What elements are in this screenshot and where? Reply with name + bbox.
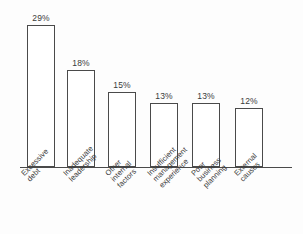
bar-chart: 29% 18% 15% 13% 13% 12% Excessive debt I…: [0, 0, 303, 234]
bar-value-excessive-debt: 29%: [27, 13, 55, 23]
bar-value-other-internal-factors: 15%: [108, 80, 136, 90]
plot-area: 29% 18% 15% 13% 13% 12% Excessive debt I…: [0, 0, 303, 234]
bar-value-poor-business-planning: 13%: [192, 91, 220, 101]
bar-excessive-debt: [27, 25, 55, 167]
bar-value-inadequate-leadership: 18%: [67, 58, 95, 68]
bar-value-external-causes: 12%: [235, 96, 263, 106]
bar-value-insufficient-management-experience: 13%: [150, 91, 178, 101]
